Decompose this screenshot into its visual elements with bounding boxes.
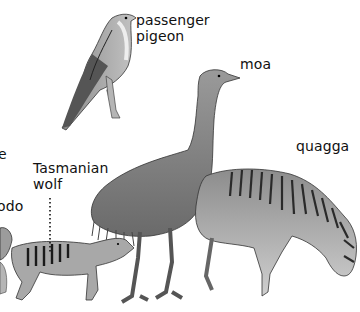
label-passenger-pigeon: passenger pigeon: [136, 12, 210, 44]
label-line: quagga: [296, 138, 349, 154]
label-partial-e: e: [0, 146, 7, 162]
label-tasmanian-wolf: Tasmanian wolf: [33, 160, 108, 192]
dodo-figure-partial: [0, 228, 12, 294]
label-line: Tasmanian: [33, 160, 108, 176]
label-line: pigeon: [136, 28, 210, 44]
label-line: moa: [240, 56, 271, 72]
quagga-figure: [196, 169, 357, 296]
label-line: wolf: [33, 176, 108, 192]
label-quagga: quagga: [296, 138, 349, 154]
label-moa: moa: [240, 56, 271, 72]
label-line: passenger: [136, 12, 210, 28]
tasmanian-wolf-figure: [11, 238, 134, 300]
extinct-animals-illustration: passenger pigeon moa quagga Tasmanian wo…: [0, 0, 360, 312]
label-line: odo: [0, 198, 23, 214]
passenger-pigeon-figure: [62, 14, 136, 130]
label-line: e: [0, 146, 7, 162]
illustration-drawing: [0, 0, 360, 312]
label-dodo-partial: odo: [0, 198, 23, 214]
